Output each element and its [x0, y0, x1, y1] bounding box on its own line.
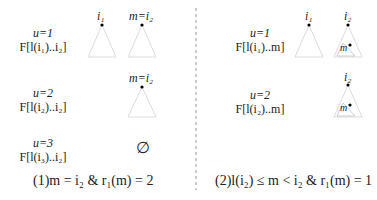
- row-label: u=1F[l(i₁)..i₂]: [8, 26, 78, 54]
- node-label: i₁: [97, 9, 105, 24]
- node-label: i₁: [305, 9, 313, 24]
- node-label: i₂: [344, 70, 352, 85]
- caption-left: (1)m = i₂ & r₁(m) = 2: [33, 173, 153, 189]
- inner-node-label: m: [340, 42, 347, 53]
- inner-node-label: m: [340, 102, 347, 113]
- node-label: i₂: [344, 9, 352, 24]
- empty-set-symbol: ∅: [136, 138, 150, 157]
- tree-triangle: [88, 25, 116, 57]
- node-label: m=i₂: [129, 9, 153, 24]
- row-label: u=3F[l(i₃)..i₂]: [8, 136, 78, 164]
- tree-triangle: [334, 85, 362, 117]
- tree-triangle: [128, 25, 156, 57]
- caption-right: (2)l(i₂) ≤ m < i₂ & r₁(m) = 1: [215, 173, 372, 189]
- tree-triangle: [128, 87, 156, 117]
- row-label: u=2F[l(i₂)..m]: [220, 88, 300, 116]
- row-label: u=1F[l(i₁)..m]: [220, 26, 300, 54]
- tree-triangle: [334, 25, 362, 57]
- node-label: m=i₂: [129, 71, 153, 86]
- row-label: u=2F[l(i₂)..i₂]: [8, 86, 78, 114]
